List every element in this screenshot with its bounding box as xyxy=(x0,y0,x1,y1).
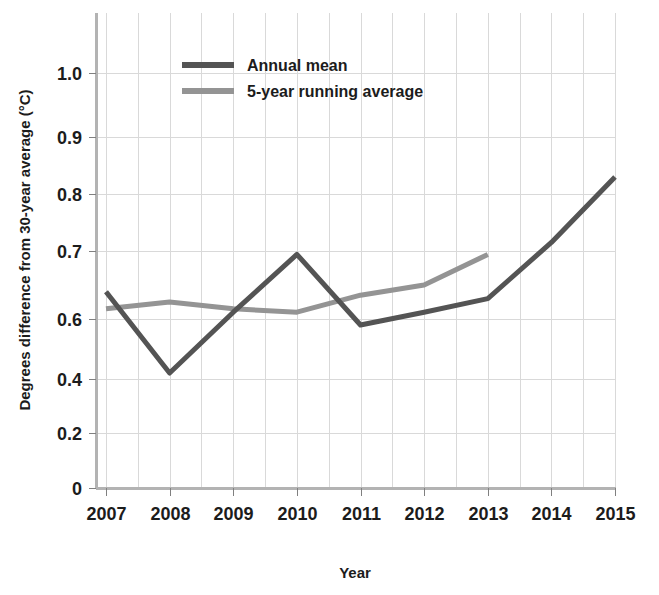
y-tick-label: 0.4 xyxy=(57,370,82,390)
y-tick-label: 0.6 xyxy=(57,310,82,330)
line-chart: 00.20.40.60.70.80.91.0 20072008200920102… xyxy=(0,0,659,595)
x-tick-label: 2013 xyxy=(468,504,508,524)
y-tick-label: 1.0 xyxy=(57,64,82,84)
x-axis-tick-labels: 200720082009201020112012201320142015 xyxy=(86,504,635,524)
y-tick-label: 0 xyxy=(72,479,82,499)
legend-label-annual-mean: Annual mean xyxy=(247,57,347,74)
legend-label-running-average: 5-year running average xyxy=(247,83,423,100)
y-axis-title: Degrees difference from 30-year average … xyxy=(16,89,33,410)
x-tick-label: 2011 xyxy=(342,504,381,524)
x-axis-title: Year xyxy=(339,564,371,581)
x-tick-label: 2008 xyxy=(150,504,190,524)
y-tick-label: 0.9 xyxy=(57,128,82,148)
x-tick-label: 2009 xyxy=(213,504,253,524)
x-tick-label: 2007 xyxy=(86,504,126,524)
x-tick-label: 2012 xyxy=(404,504,444,524)
y-tick-label: 0.8 xyxy=(57,185,82,205)
x-tick-label: 2010 xyxy=(277,504,317,524)
x-tick-label: 2015 xyxy=(595,504,635,524)
chart-container: 00.20.40.60.70.80.91.0 20072008200920102… xyxy=(0,0,659,595)
y-tick-label: 0.2 xyxy=(57,424,82,444)
x-tick-label: 2014 xyxy=(531,504,571,524)
y-tick-label: 0.7 xyxy=(57,242,82,262)
